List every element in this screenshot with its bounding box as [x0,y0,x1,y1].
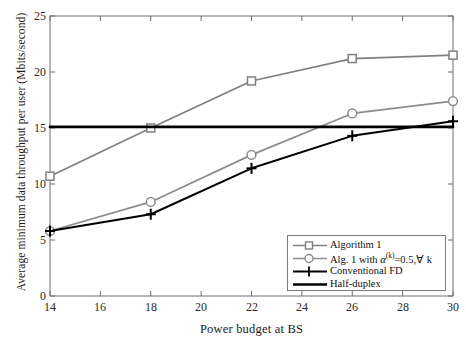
legend-symbol-plus [292,264,328,277]
plot-area [0,0,466,345]
legend-label-algorithm-1: Algorithm 1 [328,239,382,251]
legend-label-conventional-fd: Conventional FD [328,265,403,277]
legend-symbol-line [292,277,328,290]
chart-figure: Average minimum data throughput per user… [0,0,466,345]
legend: Algorithm 1 Alg. 1 with α(k)=0.5,∀ k Con… [287,235,446,291]
data-series-group [45,51,458,236]
legend-label-alpha-tail: =0.5,∀ k [394,253,432,264]
legend-symbol-circle [292,251,328,264]
series-0 [46,51,457,180]
legend-item-alg1-alpha: Alg. 1 with α(k)=0.5,∀ k [288,251,445,264]
legend-label-alg1-alpha: Alg. 1 with α(k)=0.5,∀ k [328,250,432,266]
legend-item-conventional-fd: Conventional FD [288,264,445,277]
series-2 [45,116,458,237]
legend-item-half-duplex: Half-duplex [288,277,445,290]
legend-label-alpha-base: Alg. 1 with [330,253,380,264]
legend-symbol-square [292,238,328,251]
legend-label-half-duplex: Half-duplex [328,278,381,290]
